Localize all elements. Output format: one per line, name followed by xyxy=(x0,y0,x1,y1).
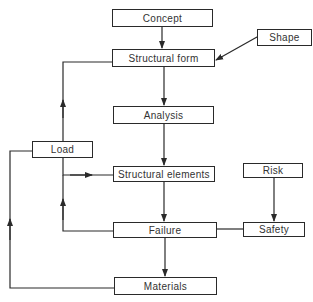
node-safety-label: Safety xyxy=(259,224,289,235)
node-risk: Risk xyxy=(243,163,303,178)
node-concept: Concept xyxy=(112,9,213,27)
node-shape: Shape xyxy=(257,29,312,46)
node-load: Load xyxy=(32,141,93,158)
node-structural-elements: Structural elements xyxy=(113,166,215,182)
node-failure: Failure xyxy=(113,222,217,238)
node-analysis: Analysis xyxy=(113,106,214,124)
node-structural-elements-label: Structural elements xyxy=(118,169,210,180)
node-failure-label: Failure xyxy=(149,225,182,236)
node-structural-form-label: Structural form xyxy=(128,53,198,64)
node-concept-label: Concept xyxy=(143,13,182,24)
flowchart-canvas: Concept Structural form Shape Analysis L… xyxy=(0,0,313,302)
node-load-label: Load xyxy=(51,144,74,155)
edge-load-structural-form xyxy=(63,62,112,141)
edge-failure-load xyxy=(63,175,113,231)
node-safety: Safety xyxy=(243,222,305,237)
edge-materials-load xyxy=(10,151,114,288)
edge-load-structural-elements xyxy=(63,158,113,175)
node-analysis-label: Analysis xyxy=(144,110,184,121)
edge-shape-structural-form xyxy=(216,37,257,60)
node-materials-label: Materials xyxy=(144,281,187,292)
node-materials: Materials xyxy=(114,277,217,295)
node-shape-label: Shape xyxy=(269,32,299,43)
node-risk-label: Risk xyxy=(263,165,284,176)
node-structural-form: Structural form xyxy=(112,49,215,67)
